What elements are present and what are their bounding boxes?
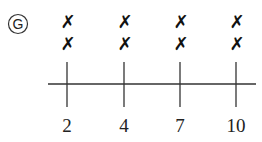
x-mark-icon: ✗: [117, 11, 132, 32]
tick-group: 2✗✗4✗✗7✗✗10✗✗: [60, 11, 245, 136]
option-letter: G: [13, 16, 24, 32]
tick-2: 2✗✗: [60, 11, 75, 136]
tick-label: 10: [227, 115, 246, 136]
tick-7: 7✗✗: [173, 11, 188, 136]
x-mark-icon: ✗: [173, 33, 188, 54]
x-mark-icon: ✗: [60, 33, 75, 54]
tick-label: 4: [119, 115, 129, 136]
tick-label: 7: [175, 115, 185, 136]
tick-10: 10✗✗: [227, 11, 246, 136]
line-plot-option: G 2✗✗4✗✗7✗✗10✗✗: [0, 0, 262, 142]
x-mark-icon: ✗: [173, 11, 188, 32]
x-mark-icon: ✗: [60, 11, 75, 32]
tick-4: 4✗✗: [117, 11, 132, 136]
tick-label: 2: [62, 115, 72, 136]
x-mark-icon: ✗: [229, 33, 244, 54]
x-mark-icon: ✗: [117, 33, 132, 54]
line-plot-svg: G 2✗✗4✗✗7✗✗10✗✗: [0, 0, 262, 142]
option-badge: G: [9, 15, 28, 34]
x-mark-icon: ✗: [229, 11, 244, 32]
